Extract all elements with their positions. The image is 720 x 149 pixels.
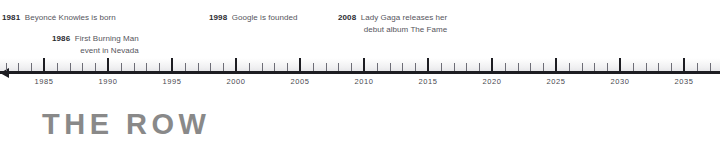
- axis-tick-major: [427, 58, 429, 71]
- axis-tick-minor: [159, 63, 160, 71]
- axis-tick-minor: [95, 63, 96, 71]
- axis-tick-label: 2035: [674, 77, 693, 86]
- axis-tick-minor: [390, 63, 391, 71]
- axis-tick-minor: [262, 63, 263, 71]
- axis-tick-minor: [569, 63, 570, 71]
- axis-tick-minor: [82, 63, 83, 71]
- event-annotation: 1981 Beyoncé Knowles is born: [2, 9, 116, 24]
- axis-tick-minor: [415, 63, 416, 71]
- event-annotation: 2008 Lady Gaga releases her debut album …: [338, 9, 447, 35]
- brand-title: THE ROW: [42, 108, 210, 140]
- event-description-text: Beyoncé Knowles is born: [25, 13, 116, 22]
- axis-tick-minor: [454, 63, 455, 71]
- event-description-text: First Burning Man: [75, 34, 139, 43]
- axis-tick-minor: [518, 63, 519, 71]
- axis-tick-major: [43, 58, 45, 71]
- event-head: 1998 Google is founded: [209, 9, 298, 24]
- event-description: Lady Gaga releases her: [356, 13, 447, 22]
- axis-tick-minor: [338, 63, 339, 71]
- event-description-line2: debut album The Fame: [338, 24, 447, 36]
- axis-tick-minor: [543, 63, 544, 71]
- axis-tick-label: 1990: [98, 77, 117, 86]
- axis-tick-minor: [31, 63, 32, 71]
- event-annotation: 1998 Google is founded: [209, 9, 298, 24]
- axis-tick-major: [619, 58, 621, 71]
- axis-tick-minor: [658, 63, 659, 71]
- axis-tick-minor: [402, 63, 403, 71]
- axis-tick-major: [235, 58, 237, 71]
- axis-tick-minor: [633, 63, 634, 71]
- axis-tick-major: [555, 58, 557, 71]
- axis-tick-label: 1995: [162, 77, 181, 86]
- axis-tick-label: 2010: [354, 77, 373, 86]
- event-year: 1981: [2, 13, 20, 22]
- axis-tick-minor: [671, 63, 672, 71]
- axis-tick-label: 2005: [290, 77, 309, 86]
- axis-tick-minor: [249, 63, 250, 71]
- event-head: 1981 Beyoncé Knowles is born: [2, 9, 116, 24]
- axis-tick-minor: [326, 63, 327, 71]
- axis-tick-label: 2020: [482, 77, 501, 86]
- axis-tick-minor: [185, 63, 186, 71]
- axis-tick-label: 2030: [610, 77, 629, 86]
- axis-tick-major: [491, 58, 493, 71]
- axis-arrow-left-icon: [0, 68, 9, 78]
- axis-tick-minor: [582, 63, 583, 71]
- event-description-line2: event in Nevada: [52, 45, 139, 57]
- axis-tick-minor: [210, 63, 211, 71]
- axis-tick-minor: [594, 63, 595, 71]
- axis-tick-minor: [223, 63, 224, 71]
- axis-tick-minor: [351, 63, 352, 71]
- axis-line: [0, 71, 720, 74]
- axis-tick-major: [683, 58, 685, 71]
- event-year: 2008: [338, 13, 356, 22]
- axis-tick-label: 2015: [418, 77, 437, 86]
- axis-tick-minor: [313, 63, 314, 71]
- event-head: 1986 First Burning Man: [52, 30, 139, 45]
- axis-tick-minor: [646, 63, 647, 71]
- event-head: 2008 Lady Gaga releases her: [338, 9, 447, 24]
- axis-tick-minor: [146, 63, 147, 71]
- axis-tick-minor: [697, 63, 698, 71]
- axis-tick-minor: [6, 63, 7, 71]
- event-annotations-layer: 1981 Beyoncé Knowles is born 1986 First …: [0, 0, 720, 62]
- event-description: Beyoncé Knowles is born: [20, 13, 116, 22]
- event-description: Google is founded: [227, 13, 297, 22]
- axis-tick-label: 2000: [226, 77, 245, 86]
- axis-tick-major: [107, 58, 109, 71]
- axis-tick-minor: [466, 63, 467, 71]
- event-description: First Burning Man: [70, 34, 139, 43]
- axis-tick-minor: [441, 63, 442, 71]
- axis-tick-minor: [57, 63, 58, 71]
- axis-tick-minor: [607, 63, 608, 71]
- axis-tick-label: 2025: [546, 77, 565, 86]
- axis-tick-major: [363, 58, 365, 71]
- axis-tick-major: [171, 58, 173, 71]
- axis-tick-minor: [198, 63, 199, 71]
- timeline-axis: 1985199019952000200520102015202020252030…: [0, 58, 720, 96]
- event-annotation: 1986 First Burning Man event in Nevada: [52, 30, 139, 56]
- event-description-text: Lady Gaga releases her: [361, 13, 448, 22]
- axis-tick-minor: [479, 63, 480, 71]
- axis-tick-minor: [18, 63, 19, 71]
- timeline-page: 1981 Beyoncé Knowles is born 1986 First …: [0, 0, 720, 149]
- axis-tick-label: 1985: [34, 77, 53, 86]
- event-year: 1986: [52, 34, 70, 43]
- axis-tick-minor: [274, 63, 275, 71]
- axis-tick-minor: [377, 63, 378, 71]
- axis-tick-minor: [287, 63, 288, 71]
- axis-tick-minor: [134, 63, 135, 71]
- axis-tick-major: [299, 58, 301, 71]
- axis-tick-minor: [505, 63, 506, 71]
- axis-tick-minor: [121, 63, 122, 71]
- axis-tick-minor: [530, 63, 531, 71]
- axis-tick-minor: [710, 63, 711, 71]
- axis-tick-minor: [70, 63, 71, 71]
- event-year: 1998: [209, 13, 227, 22]
- event-description-text: Google is founded: [232, 13, 298, 22]
